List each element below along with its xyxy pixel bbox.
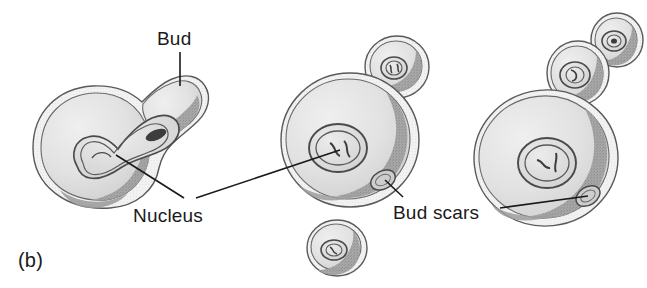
nucleus-bud-right-mid <box>560 62 590 88</box>
nucleus-bud-middle <box>381 57 407 79</box>
panel-label: (b) <box>18 250 43 270</box>
yeast-illustration <box>0 0 647 288</box>
label-bud: Bud <box>157 29 191 48</box>
label-bud-scars: Bud scars <box>393 203 479 222</box>
label-nucleus: Nucleus <box>133 206 203 225</box>
yeast-budding-figure: Bud Nucleus Bud scars (b) <box>0 0 647 288</box>
nucleus-daughter <box>321 240 347 260</box>
cell-group-middle <box>281 36 429 207</box>
cell-group-left <box>33 76 209 208</box>
nucleolus-right-top <box>611 38 617 43</box>
cell-group-detached-daughter <box>307 220 367 276</box>
